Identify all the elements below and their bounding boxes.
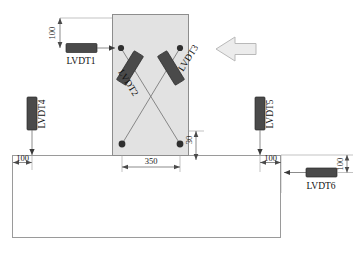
lvdt5-arrowhead — [257, 149, 262, 155]
sensor-body-lvdt1[interactable] — [66, 44, 97, 53]
dim-top-left-100-arrow-top — [58, 18, 63, 24]
dim-lvdt6-100-value: 100 — [335, 158, 345, 171]
sensor-label-lvdt5: LVDT5 — [265, 99, 275, 128]
dim-right-100-value: 100 — [264, 153, 277, 163]
load-direction-arrow — [216, 37, 256, 61]
sensor-body-lvdt5[interactable] — [255, 97, 265, 130]
dim-350-value: 350 — [145, 156, 158, 166]
lvdt-layout-diagram: LVDT2 LVDT3 LVDT1 100 LVDT4 100 350 30 L… — [0, 0, 363, 253]
dim-lvdt6-100-arrow-top — [345, 155, 350, 161]
sensor-label-lvdt1: LVDT1 — [66, 56, 95, 66]
lvdt4-arrowhead — [29, 149, 34, 155]
sensor-label-lvdt4: LVDT4 — [37, 99, 47, 128]
anchor-dot-bottom-right — [177, 141, 184, 148]
sensor-body-lvdt6[interactable] — [306, 168, 337, 177]
sensor-body-lvdt4[interactable] — [27, 97, 37, 130]
dim-top-left-100-value: 100 — [47, 27, 57, 40]
dim-30-arrow-top — [194, 131, 199, 137]
diagram-canvas: LVDT2 LVDT3 LVDT1 100 LVDT4 100 350 30 L… — [0, 0, 363, 253]
lvdt6-arrowhead — [284, 170, 290, 175]
dim-left-100-value: 100 — [16, 153, 29, 163]
dim-top-left-100-arrow-bottom — [58, 42, 63, 48]
anchor-dot-top-right — [177, 45, 183, 51]
dim-lvdt6-100-arrow-bottom — [345, 167, 350, 173]
anchor-dot-top-left — [118, 45, 124, 51]
sensor-label-lvdt6: LVDT6 — [306, 181, 335, 191]
anchor-dot-bottom-left — [119, 141, 126, 148]
beam — [13, 156, 281, 238]
dim-30-value: 30 — [184, 136, 194, 145]
